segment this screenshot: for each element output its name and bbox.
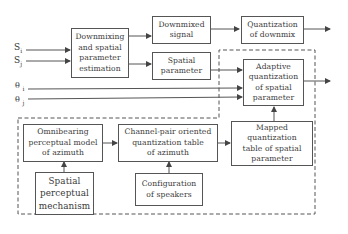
theta-j-base: θ: [15, 95, 20, 104]
block-omnibearing-model: Omnibearing perceptual model of azimuth: [23, 124, 103, 162]
theta-i-sub: i: [22, 85, 24, 92]
block-mapped-quantization-table: Mapped quantization table of spatial par…: [231, 121, 313, 166]
block-downmixed-signal: Downmixed signal: [152, 16, 211, 44]
input-label-theta-i: θ i: [15, 81, 24, 92]
block-spatial-parameter: Spatial parameter: [152, 52, 211, 80]
block-channel-pair-table: Channel-pair oriented quantization table…: [118, 124, 218, 162]
input-label-s-i: Si: [14, 42, 22, 54]
theta-i-base: θ: [15, 81, 20, 90]
block-speaker-configuration: Configuration of speakers: [135, 173, 203, 206]
block-downmixing-estimation: Downmixing and spatial parameter estimat…: [71, 28, 129, 78]
theta-j-sub: j: [22, 99, 24, 106]
block-spatial-perceptual-mechanism: Spatial perceptual mechanism: [35, 172, 94, 215]
input-label-s-j: Sj: [14, 55, 22, 67]
block-quantization-downmix: Quantization of downmix: [241, 16, 304, 44]
s-i-sub: i: [20, 47, 22, 54]
s-j-sub: j: [20, 60, 22, 67]
input-label-theta-j: θ j: [15, 95, 24, 106]
block-adaptive-quantization: Adaptive quantization of spatial paramet…: [243, 59, 304, 106]
